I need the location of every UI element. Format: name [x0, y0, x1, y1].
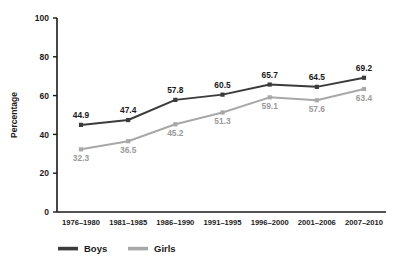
legend-label-girls: Girls — [154, 243, 176, 254]
data-point-label: 59.1 — [262, 101, 279, 111]
line-chart: Percentage 020406080100 1976–19801981–19… — [0, 0, 406, 270]
data-point-label: 65.7 — [262, 70, 279, 80]
data-point-label: 60.5 — [214, 80, 231, 90]
x-tick-label: 1976–1980 — [62, 218, 100, 227]
y-tick-label: 0 — [44, 207, 49, 217]
data-point-marker — [362, 87, 366, 91]
data-point-marker — [79, 147, 83, 151]
data-point-label: 45.2 — [167, 128, 184, 138]
chart-legend: BoysGirls — [58, 243, 176, 254]
data-point-label: 44.9 — [73, 110, 90, 120]
x-tick-label: 1991–1995 — [203, 218, 242, 227]
data-point-marker — [315, 85, 319, 89]
y-tick-label: 40 — [40, 130, 50, 140]
y-axis-title: Percentage — [9, 92, 19, 138]
data-point-marker — [268, 95, 272, 99]
chart-container: Percentage 020406080100 1976–19801981–19… — [0, 0, 406, 270]
x-tick-label: 1981–1985 — [109, 218, 148, 227]
chart-axes — [57, 18, 386, 212]
data-point-marker — [315, 98, 319, 102]
legend-swatch-boys — [58, 247, 78, 251]
data-point-marker — [268, 82, 272, 86]
y-tick-label: 60 — [40, 91, 50, 101]
y-tick-label: 80 — [40, 52, 50, 62]
data-point-label: 51.3 — [214, 116, 231, 126]
data-point-marker — [173, 122, 177, 126]
x-tick-label: 1986–1990 — [156, 218, 194, 227]
data-point-label: 69.2 — [356, 63, 373, 73]
series-layer: 44.947.457.860.565.764.569.232.336.545.2… — [73, 63, 373, 164]
data-point-label: 57.6 — [309, 104, 326, 114]
legend-label-boys: Boys — [84, 243, 107, 254]
x-tick-label: 1996–2000 — [251, 218, 289, 227]
x-tick-label: 2001–2006 — [298, 218, 336, 227]
data-point-label: 63.4 — [356, 93, 373, 103]
data-point-label: 64.5 — [309, 72, 326, 82]
data-point-marker — [126, 139, 130, 143]
data-point-marker — [79, 123, 83, 127]
data-point-marker — [220, 110, 224, 114]
data-point-label: 57.8 — [167, 85, 184, 95]
legend-swatch-girls — [128, 247, 148, 251]
data-point-marker — [173, 98, 177, 102]
y-axis-ticks: 020406080100 — [35, 13, 57, 217]
data-point-label: 36.5 — [120, 145, 137, 155]
y-tick-label: 20 — [40, 168, 50, 178]
x-tick-label: 2007–2010 — [345, 218, 383, 227]
y-tick-label: 100 — [35, 13, 49, 23]
data-point-label: 47.4 — [120, 105, 137, 115]
data-point-label: 32.3 — [73, 153, 90, 163]
x-axis-ticks: 1976–19801981–19851986–19901991–19951996… — [62, 218, 383, 227]
data-point-marker — [126, 118, 130, 122]
data-point-marker — [220, 93, 224, 97]
data-point-marker — [362, 76, 366, 80]
